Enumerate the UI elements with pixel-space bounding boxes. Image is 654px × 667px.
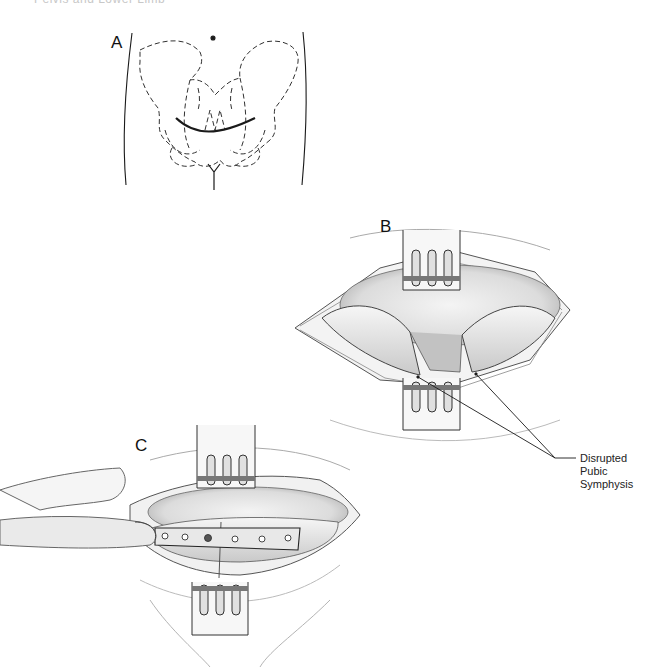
panel-c-drawing bbox=[0, 425, 360, 667]
panel-a-drawing bbox=[124, 32, 306, 190]
retractor-top-b bbox=[403, 230, 460, 290]
callout-line-1: Disrupted bbox=[580, 452, 633, 465]
callout-disrupted-pubic-symphysis: Disrupted Pubic Symphysis bbox=[580, 452, 633, 491]
retractor-bottom-b bbox=[403, 378, 460, 430]
retractor-bottom-c bbox=[192, 582, 248, 635]
retractor-top-c bbox=[197, 425, 255, 488]
callout-line-3: Symphysis bbox=[580, 478, 633, 491]
callout-line-2: Pubic bbox=[580, 465, 633, 478]
panel-label-b: B bbox=[380, 218, 391, 235]
panel-b-drawing bbox=[295, 229, 576, 458]
figure-illustration bbox=[0, 0, 654, 667]
panel-label-a: A bbox=[111, 34, 122, 51]
panel-label-c: C bbox=[135, 437, 147, 454]
